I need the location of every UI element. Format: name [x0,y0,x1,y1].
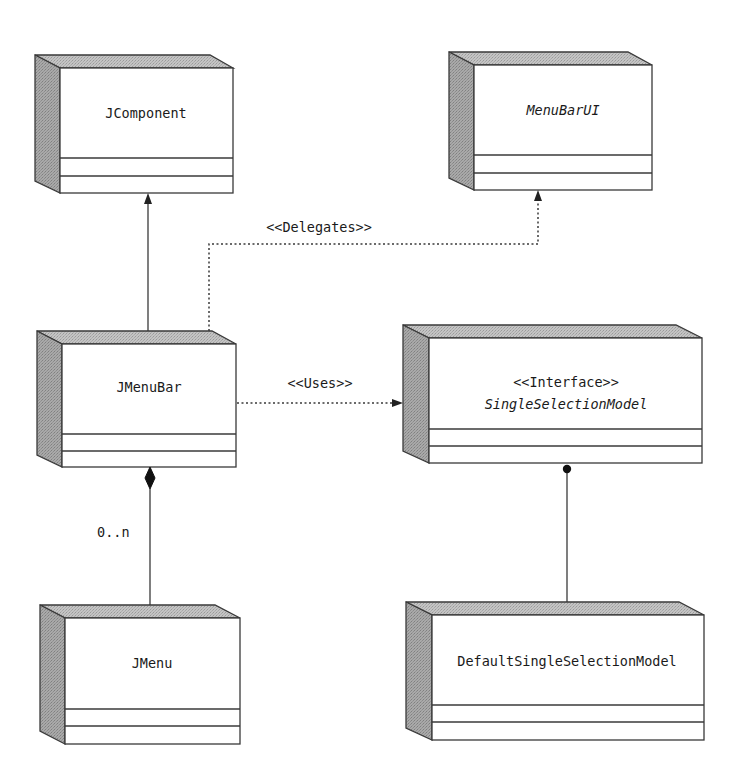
uml-class-diagram: JComponent MenuBarUI JMenuBar <<Interfac… [0,0,738,776]
box-side-face [403,325,429,463]
implements-link [563,465,571,602]
class-name-menubarui: MenuBarUI [525,102,599,118]
class-name-defaultsingleselectionmodel: DefaultSingleSelectionModel [457,653,676,669]
box-side-face [35,55,60,193]
box-front-face [474,65,652,190]
class-box-menubarui[interactable]: MenuBarUI [449,52,652,190]
box-side-face [37,331,62,467]
arrowhead-icon [392,399,403,407]
filled-diamond-icon [145,467,155,489]
box-side-face [40,605,65,744]
box-side-face [406,602,432,740]
class-box-jmenubar[interactable]: JMenuBar [37,331,236,467]
delegates-label: <<Delegates>> [266,219,372,235]
interface-ball-icon [563,465,571,473]
class-name-jmenu: JMenu [132,655,173,671]
box-side-face [449,52,474,190]
composition-link [145,467,155,605]
box-top-face [449,52,652,65]
stereotype-interface: <<Interface>> [513,374,619,390]
class-name-singleselectionmodel: SingleSelectionModel [485,396,648,412]
arrowhead-icon [534,190,542,201]
box-top-face [37,331,236,344]
class-name-jcomponent: JComponent [105,105,186,121]
uses-arrow [237,399,403,407]
delegates-arrow [209,190,542,331]
box-front-face [432,615,704,740]
arrowhead-icon [144,193,152,204]
box-front-face [60,68,233,193]
box-top-face [406,602,704,615]
class-box-defaultsingleselectionmodel[interactable]: DefaultSingleSelectionModel [406,602,704,740]
box-top-face [40,605,240,618]
box-front-face [62,344,236,467]
class-box-jmenu[interactable]: JMenu [40,605,240,744]
class-box-singleselectionmodel[interactable]: <<Interface>> SingleSelectionModel [403,325,702,463]
inheritance-arrow [144,193,152,331]
class-name-jmenubar: JMenuBar [116,379,181,395]
uses-label: <<Uses>> [287,375,352,391]
box-top-face [403,325,702,338]
box-front-face [65,618,240,744]
class-box-jcomponent[interactable]: JComponent [35,55,233,193]
multiplicity-label: 0..n [97,524,130,540]
box-top-face [35,55,233,68]
